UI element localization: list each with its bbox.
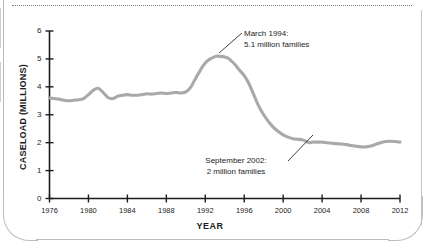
annotation-trough-line2: 2 million families [186, 167, 286, 178]
y-tick-label-4: 4 [28, 82, 42, 91]
x-tick-label-1980: 1980 [73, 206, 103, 215]
x-tick-label-1988: 1988 [151, 206, 181, 215]
annotation-peak-1994: March 1994: 5.1 million families [244, 29, 309, 50]
y-tick-label-1: 1 [28, 166, 42, 175]
scanned-page: CASELOAD (MILLIONS) YEAR 0123456 1976198… [0, 0, 433, 245]
x-tick-label-1976: 1976 [35, 206, 65, 215]
annotation-trough-line1: September 2002: [186, 156, 286, 167]
x-tick-label-2012: 2012 [385, 206, 415, 215]
x-tick-label-2004: 2004 [307, 206, 337, 215]
x-tick-label-2008: 2008 [346, 206, 376, 215]
line-chart: CASELOAD (MILLIONS) YEAR 0123456 1976198… [0, 0, 433, 245]
y-tick-label-2: 2 [28, 138, 42, 147]
y-tick-label-0: 0 [28, 194, 42, 203]
x-axis-title: YEAR [150, 221, 270, 231]
y-tick-label-6: 6 [28, 26, 42, 35]
y-tick-label-5: 5 [28, 54, 42, 63]
x-tick-label-1996: 1996 [229, 206, 259, 215]
annotation-trough-2002: September 2002: 2 million families [186, 156, 286, 177]
x-tick-label-1984: 1984 [112, 206, 142, 215]
x-tick-label-2000: 2000 [268, 206, 298, 215]
annotation-peak-line2: 5.1 million families [244, 40, 309, 51]
y-axis-title: CASELOAD (MILLIONS) [18, 57, 28, 177]
annotation-peak-line1: March 1994: [244, 29, 309, 40]
data-series-line [50, 56, 401, 147]
leader-line-peak [219, 33, 242, 53]
x-tick-label-1992: 1992 [190, 206, 220, 215]
y-tick-label-3: 3 [28, 110, 42, 119]
